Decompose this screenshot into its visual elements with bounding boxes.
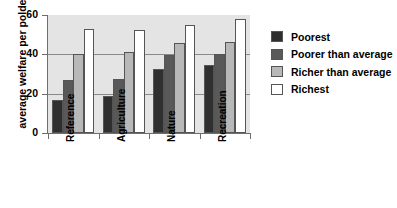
x-axis-label: Reference <box>65 94 76 142</box>
legend-item: Poorer than average <box>271 46 393 64</box>
y-tick-label: 0 <box>0 127 38 138</box>
bar-chart-figure: average welfare per polder 0204060 Refer… <box>0 0 397 208</box>
bar <box>153 69 164 133</box>
legend-label: Richest <box>291 83 329 95</box>
legend-swatch <box>271 66 283 77</box>
x-axis-label: Nature <box>166 110 177 142</box>
bar <box>235 19 246 133</box>
y-axis-title: average welfare per polder <box>16 0 28 137</box>
bar <box>103 96 114 133</box>
legend-label: Richer than average <box>291 66 391 78</box>
x-tick <box>250 134 251 139</box>
legend-label: Poorer than average <box>291 48 393 60</box>
legend-swatch <box>271 31 283 42</box>
y-tick <box>42 15 47 16</box>
y-tick <box>42 54 47 55</box>
bar <box>204 65 215 133</box>
bar <box>52 100 63 133</box>
y-tick <box>42 133 47 134</box>
legend-swatch <box>271 49 283 60</box>
x-tick <box>48 134 49 139</box>
y-tick-label: 20 <box>0 88 38 99</box>
legend-item: Poorest <box>271 28 393 46</box>
bar <box>134 30 145 133</box>
y-axis-line <box>47 15 48 133</box>
legend-item: Richer than average <box>271 63 393 81</box>
x-axis-label: Agriculture <box>116 89 127 142</box>
legend-label: Poorest <box>291 31 330 43</box>
bar <box>185 25 196 133</box>
x-tick <box>149 134 150 139</box>
legend-item: Richest <box>271 81 393 99</box>
y-tick-label: 60 <box>0 9 38 20</box>
x-axis-label: Recreation <box>217 90 228 142</box>
y-tick-label: 40 <box>0 48 38 59</box>
y-tick <box>42 94 47 95</box>
chart-legend: PoorestPoorer than averageRicher than av… <box>271 28 393 98</box>
x-tick <box>99 134 100 139</box>
legend-swatch <box>271 84 283 95</box>
x-tick <box>200 134 201 139</box>
bar <box>84 29 95 133</box>
